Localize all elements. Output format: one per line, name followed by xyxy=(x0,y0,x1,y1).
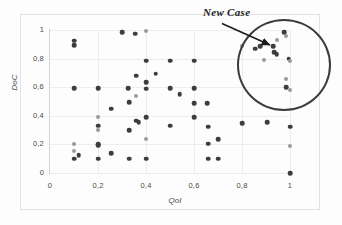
x-tick-label-0,8: 0,8 xyxy=(229,181,255,190)
data-point xyxy=(240,121,245,126)
y-tick-label-0,4: 0,4 xyxy=(18,111,44,120)
data-point xyxy=(153,71,158,76)
data-point xyxy=(96,86,101,91)
data-point xyxy=(144,29,148,33)
scatter-plot-figure: 00,20,40,60,81 00,20,40,60,81 DoC QoI Ne… xyxy=(0,0,342,225)
data-point xyxy=(192,86,197,91)
data-point xyxy=(144,137,148,141)
data-point xyxy=(109,151,114,156)
data-point xyxy=(137,120,142,125)
gridline-y-0,2 xyxy=(50,144,290,145)
data-point xyxy=(120,30,125,35)
data-point xyxy=(216,156,221,161)
data-point xyxy=(288,124,293,129)
data-point xyxy=(109,106,114,111)
data-point xyxy=(177,92,182,97)
data-point xyxy=(144,156,149,161)
data-point xyxy=(192,115,197,120)
x-axis-label: QoI xyxy=(155,196,195,205)
data-point xyxy=(96,115,100,119)
data-point xyxy=(168,86,173,91)
data-point xyxy=(134,73,139,78)
data-point xyxy=(205,101,210,106)
x-tick-label-0,6: 0,6 xyxy=(181,181,207,190)
x-tick-label-0,4: 0,4 xyxy=(133,181,159,190)
x-tick-label-0,2: 0,2 xyxy=(85,181,111,190)
gridline-y-0,4 xyxy=(50,116,290,117)
y-tick-label-0,8: 0,8 xyxy=(18,54,44,63)
data-point xyxy=(206,156,211,161)
data-point xyxy=(96,128,100,132)
data-point xyxy=(126,86,131,91)
data-point xyxy=(288,171,293,176)
data-point xyxy=(133,31,138,36)
data-point xyxy=(127,156,132,161)
data-point xyxy=(72,149,76,153)
highlight-circle xyxy=(237,19,331,111)
data-point xyxy=(168,58,173,63)
data-point xyxy=(134,94,138,98)
data-point xyxy=(168,124,173,129)
x-tick-label-1: 1 xyxy=(277,181,303,190)
gridline-x-0,4 xyxy=(146,30,147,173)
data-point xyxy=(144,115,149,120)
data-point xyxy=(265,120,270,125)
data-point xyxy=(96,156,101,161)
data-point xyxy=(206,141,211,146)
data-point xyxy=(192,101,197,106)
data-point xyxy=(72,156,77,161)
data-point xyxy=(288,144,292,148)
data-point xyxy=(72,43,77,48)
data-point xyxy=(144,80,149,85)
data-point xyxy=(216,137,221,142)
data-point xyxy=(96,143,101,148)
data-point xyxy=(127,128,132,133)
data-point xyxy=(144,58,149,63)
data-point xyxy=(72,86,77,91)
data-point xyxy=(77,153,82,158)
data-point xyxy=(127,100,132,105)
y-tick-label-0: 0 xyxy=(18,168,44,177)
data-point xyxy=(144,86,149,91)
x-tick-label-0: 0 xyxy=(37,181,63,190)
y-tick-label-0,2: 0,2 xyxy=(18,139,44,148)
y-axis-label: DoC xyxy=(10,63,19,103)
gridline-y-0 xyxy=(50,173,290,174)
y-tick-label-1: 1 xyxy=(18,25,44,34)
new-case-annotation-label: New Case xyxy=(203,6,250,18)
data-point xyxy=(206,124,211,129)
data-point xyxy=(72,142,76,146)
y-tick-label-0,6: 0,6 xyxy=(18,82,44,91)
data-point xyxy=(192,58,197,63)
gridline-x-0,2 xyxy=(98,30,99,173)
